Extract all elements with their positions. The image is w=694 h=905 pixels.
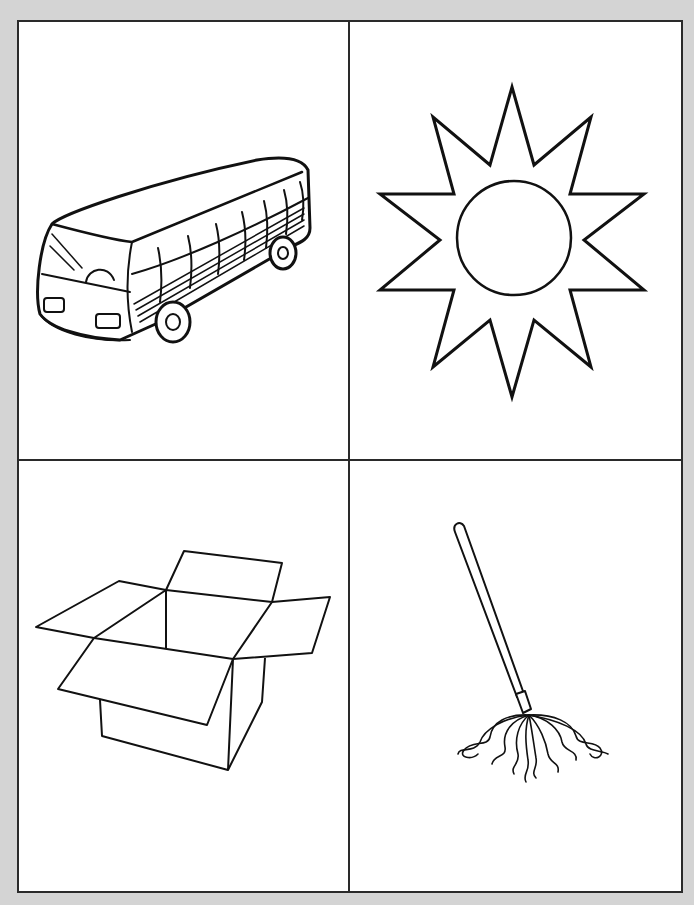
worksheet: bus bbox=[17, 20, 683, 893]
mop-icon bbox=[350, 461, 685, 893]
cell-top-right: sun bbox=[350, 22, 685, 459]
bus-icon bbox=[19, 22, 348, 459]
cell-bottom-left: box bbox=[19, 461, 348, 893]
cell-bottom-right: mop bbox=[350, 461, 685, 893]
cell-top-left: bus bbox=[19, 22, 348, 459]
sun-icon bbox=[350, 22, 685, 459]
box-icon bbox=[19, 461, 348, 893]
